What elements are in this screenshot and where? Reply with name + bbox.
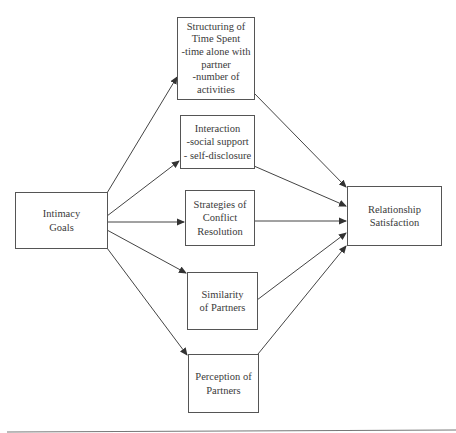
box-text: activities <box>197 84 235 97</box>
box-text: Conflict <box>203 211 237 225</box>
box-text: Perception of <box>195 370 251 384</box>
box-text: Interaction <box>195 122 240 136</box>
box-text: Relationship <box>368 203 421 217</box>
arrow-goals-to-similarity <box>107 230 186 273</box>
arrow-interaction-to-satisfaction <box>254 166 346 206</box>
box-text: Time Spent <box>192 33 240 46</box>
interaction-box: Interaction -social support - self-discl… <box>180 115 255 169</box>
arrow-goals-to-perception <box>107 248 187 355</box>
box-text: Satisfaction <box>370 216 420 230</box>
conflict-strategies-box: Strategies of Conflict Resolution <box>185 190 255 246</box>
similarity-box: Similarity of Partners <box>187 272 258 330</box>
box-text: -number of <box>193 71 240 84</box>
box-text: Intimacy <box>43 207 80 221</box>
bottom-rule-visible <box>7 430 456 432</box>
relationship-satisfaction-box: Relationship Satisfaction <box>347 186 442 246</box>
box-text: Structuring of <box>187 21 246 34</box>
box-text: Strategies of <box>194 198 247 212</box>
box-text: Resolution <box>197 225 243 239</box>
perception-box: Perception of Partners <box>188 354 259 413</box>
arrow-similarity-to-satisfaction <box>257 233 346 300</box>
arrow-goals-to-structuring <box>107 77 177 193</box>
intimacy-goals-box: Intimacy Goals <box>15 192 108 249</box>
box-text: Similarity <box>202 288 244 302</box>
arrow-structuring-to-satisfaction <box>254 93 346 187</box>
box-text: -social support <box>186 135 248 149</box>
arrow-perception-to-satisfaction <box>258 246 346 354</box>
box-text: - self-disclosure <box>184 149 251 163</box>
arrow-goals-to-interaction <box>107 161 179 216</box>
box-text: of Partners <box>200 301 246 315</box>
box-text: Goals <box>49 221 74 235</box>
box-text: partner <box>201 59 231 72</box>
box-text: Partners <box>206 384 240 398</box>
box-text: -time alone with <box>182 46 251 59</box>
structuring-time-box: Structuring of Time Spent -time alone wi… <box>177 17 255 100</box>
